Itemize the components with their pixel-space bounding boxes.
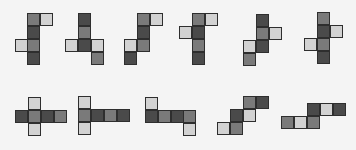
net-square <box>192 13 205 26</box>
net-square <box>124 39 137 52</box>
net-square <box>320 103 333 116</box>
net-square <box>256 27 269 40</box>
net-square <box>269 27 282 40</box>
net-square <box>40 13 53 26</box>
net-square <box>192 39 205 52</box>
net-square <box>205 13 218 26</box>
net-square <box>294 116 307 129</box>
net-square <box>183 123 196 136</box>
net-square <box>137 39 150 52</box>
net-square <box>145 110 158 123</box>
net-square <box>104 109 117 122</box>
net-square <box>137 26 150 39</box>
net-square <box>158 110 171 123</box>
net-square <box>243 40 256 53</box>
net-square <box>124 52 137 65</box>
net-square <box>28 110 41 123</box>
net-square <box>78 13 91 26</box>
net-square <box>78 26 91 39</box>
net-square <box>192 26 205 39</box>
net-square <box>54 110 67 123</box>
net-square <box>15 110 28 123</box>
net-square <box>256 96 269 109</box>
net-square <box>145 97 158 110</box>
net-square <box>317 12 330 25</box>
net-square <box>230 122 243 135</box>
net-square <box>333 103 346 116</box>
net-square <box>243 96 256 109</box>
net-square <box>41 110 54 123</box>
net-square <box>179 26 192 39</box>
net-square <box>317 25 330 38</box>
net-square <box>27 52 40 65</box>
net-square <box>91 39 104 52</box>
net-square <box>91 52 104 65</box>
net-square <box>243 53 256 66</box>
net-square <box>78 96 91 109</box>
net-square <box>230 109 243 122</box>
net-square <box>217 122 230 135</box>
net-square <box>27 39 40 52</box>
net-square <box>78 109 91 122</box>
net-square <box>78 39 91 52</box>
net-square <box>304 38 317 51</box>
net-square <box>307 116 320 129</box>
net-square <box>137 13 150 26</box>
net-square <box>91 109 104 122</box>
net-square <box>330 25 343 38</box>
net-square <box>27 26 40 39</box>
net-square <box>281 116 294 129</box>
net-square <box>150 13 163 26</box>
net-square <box>28 97 41 110</box>
net-square <box>256 14 269 27</box>
net-square <box>117 109 130 122</box>
net-square <box>192 52 205 65</box>
net-square <box>27 13 40 26</box>
net-square <box>307 103 320 116</box>
net-square <box>78 122 91 135</box>
net-square <box>65 39 78 52</box>
net-square <box>183 110 196 123</box>
cube-nets-diagram <box>0 0 356 150</box>
net-square <box>28 123 41 136</box>
net-square <box>317 51 330 64</box>
net-square <box>243 109 256 122</box>
net-square <box>317 38 330 51</box>
net-square <box>256 40 269 53</box>
